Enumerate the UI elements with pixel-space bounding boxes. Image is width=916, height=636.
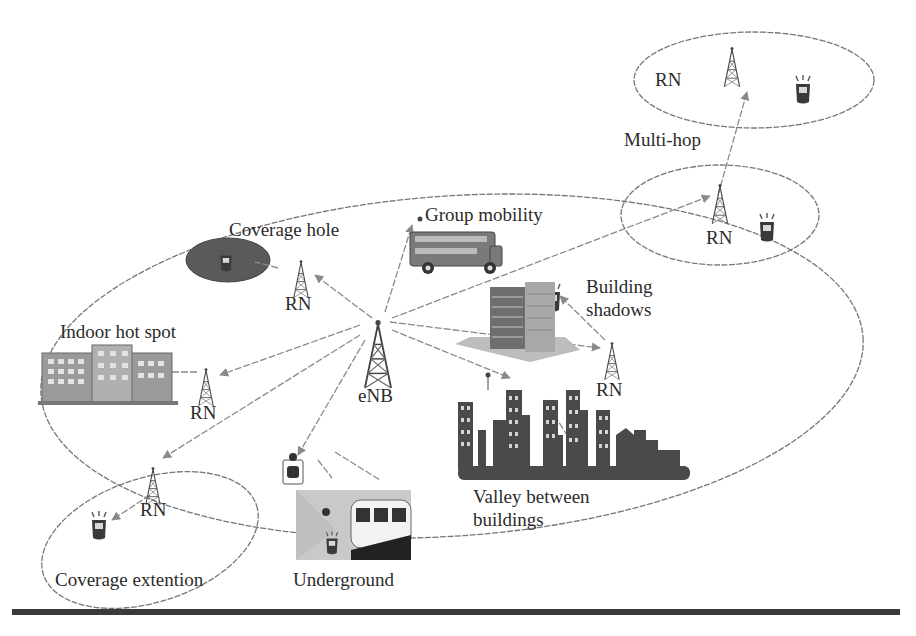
relay-scenarios-diagram xyxy=(0,0,916,636)
coverage-hole-rn-label: RN xyxy=(285,294,311,314)
rn-coverage-hole-tower-icon xyxy=(294,260,308,297)
coverage-extension-ellipse xyxy=(24,446,275,633)
rn-building-shadows-tower-icon xyxy=(605,342,619,379)
multihop-mid-phone-icon xyxy=(760,213,774,242)
group-mobility-label: Group mobility xyxy=(425,205,543,225)
office-building-icon xyxy=(455,282,580,362)
multihop-top-rn-label: RN xyxy=(655,70,681,90)
coverage-extention-label: Coverage extention xyxy=(55,570,203,590)
building-shadows-rn-label: RN xyxy=(596,380,622,400)
rn-multihop-top-tower-icon xyxy=(724,47,739,87)
indoor-hot-spot-label: Indoor hot spot xyxy=(60,322,176,342)
building-shadows-label-line1: Building xyxy=(586,277,653,297)
bottom-rule xyxy=(12,609,900,615)
coverage-extension-phone-icon xyxy=(92,511,106,540)
multi-hop-label: Multi-hop xyxy=(624,130,701,150)
multihop-top-phone-icon xyxy=(796,75,810,104)
valley-label-line2: buildings xyxy=(473,510,544,530)
train-sign-icon xyxy=(283,453,303,484)
rn-indoor-tower-icon xyxy=(199,368,213,405)
multihop-mid-rn-label: RN xyxy=(706,228,732,248)
city-skyline-icon xyxy=(458,373,690,481)
coverage-hole-label: Coverage hole xyxy=(229,220,339,240)
underground-label: Underground xyxy=(293,570,394,590)
enb-label: eNB xyxy=(358,386,393,406)
indoor-rn-label: RN xyxy=(190,403,216,423)
coverage-extension-rn-label: RN xyxy=(140,500,166,520)
bus-icon xyxy=(410,217,502,275)
building-shadows-label-line2: shadows xyxy=(586,300,651,320)
underground-train-image xyxy=(296,490,411,560)
indoor-apartment-building-icon xyxy=(38,345,178,405)
enb-tower-icon xyxy=(365,320,391,388)
valley-label-line1: Valley between xyxy=(473,487,590,507)
